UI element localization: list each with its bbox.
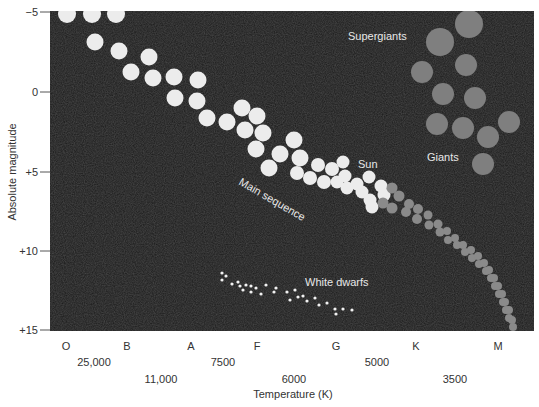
star-point — [467, 246, 475, 254]
star-point — [272, 290, 275, 293]
star-point — [255, 125, 272, 142]
star-point — [248, 141, 265, 158]
x-tick-label: K — [412, 340, 420, 352]
x-tick-label: O — [62, 340, 71, 352]
hr-diagram: SupergiantsGiantsSunMain sequenceWhite d… — [0, 0, 539, 407]
x-tick-label: A — [187, 340, 195, 352]
star-point — [107, 5, 125, 23]
star-point — [145, 70, 162, 87]
star-point — [455, 54, 477, 76]
star-point — [444, 236, 452, 244]
star-point — [508, 316, 516, 324]
y-tick-label: +5 — [25, 166, 38, 178]
star-point — [455, 10, 483, 38]
star-point — [366, 201, 379, 214]
star-point — [249, 290, 252, 293]
star-point — [167, 90, 184, 107]
star-point — [274, 286, 277, 289]
annotation-sun: Sun — [358, 158, 378, 170]
star-point — [237, 122, 254, 139]
star-point — [350, 308, 353, 311]
star-point — [272, 146, 289, 163]
y-tick-label: 0 — [32, 86, 38, 98]
star-point — [317, 303, 320, 306]
star-point — [293, 288, 296, 291]
star-point — [224, 274, 227, 277]
annotation-white-dwarfs: White dwarfs — [305, 276, 369, 288]
star-point — [325, 301, 328, 304]
annotation-giants: Giants — [427, 151, 459, 163]
star-point — [313, 296, 316, 299]
star-point — [452, 117, 474, 139]
star-point — [199, 110, 216, 127]
star-point — [254, 286, 257, 289]
star-point — [459, 241, 467, 249]
star-point — [341, 307, 344, 310]
spectral-class-labels: OBAFGKM — [62, 340, 503, 352]
star-point — [485, 266, 493, 274]
star-point — [498, 111, 520, 133]
star-point — [333, 307, 336, 310]
star-point — [424, 211, 433, 220]
star-point — [286, 132, 303, 149]
star-point — [413, 204, 423, 214]
star-point — [426, 28, 454, 56]
star-point — [464, 87, 486, 109]
y-tick-label: +15 — [19, 324, 38, 336]
star-point — [501, 298, 509, 306]
star-point — [378, 198, 389, 209]
y-tick-label: +10 — [19, 245, 38, 257]
star-point — [220, 271, 223, 274]
star-point — [123, 64, 140, 81]
x-tick-label: M — [493, 340, 502, 352]
star-point — [480, 259, 488, 267]
star-point — [498, 290, 506, 298]
x-tick-label: 11,000 — [145, 373, 178, 385]
star-point — [305, 299, 308, 302]
star-point — [472, 153, 494, 175]
star-point — [261, 160, 278, 177]
star-point — [426, 113, 448, 135]
star-point — [285, 290, 288, 293]
star-point — [288, 298, 291, 301]
star-point — [394, 191, 405, 202]
star-point — [111, 43, 128, 60]
temperature-ticks-row1: 25,00075005000 — [77, 356, 389, 368]
star-point — [334, 312, 337, 315]
star-point — [337, 156, 350, 169]
star-point — [494, 282, 502, 290]
star-point — [301, 294, 304, 297]
x-tick-label: G — [332, 340, 341, 352]
star-point — [249, 108, 266, 125]
star-point — [241, 288, 244, 291]
star-point — [141, 49, 158, 66]
star-point — [249, 284, 252, 287]
star-point — [292, 150, 309, 167]
star-point — [477, 126, 499, 148]
star-point — [412, 214, 422, 224]
x-tick-label: B — [123, 340, 130, 352]
star-point — [303, 171, 317, 185]
star-point — [505, 306, 513, 314]
star-point — [244, 283, 247, 286]
x-tick-label: 3500 — [443, 373, 467, 385]
x-tick-label: 6000 — [282, 373, 306, 385]
star-point — [509, 323, 517, 331]
x-tick-label: 7500 — [211, 356, 235, 368]
star-point — [474, 252, 482, 260]
x-tick-label: 25,000 — [77, 356, 111, 368]
star-point — [234, 100, 251, 117]
star-point — [363, 171, 376, 184]
star-point — [290, 166, 304, 180]
star-point — [296, 295, 299, 298]
star-point — [451, 234, 459, 242]
star-point — [311, 158, 325, 172]
star-point — [490, 274, 498, 282]
star-point — [259, 292, 262, 295]
star-point — [238, 284, 241, 287]
star-point — [264, 283, 267, 286]
star-point — [434, 220, 443, 229]
star-point — [58, 5, 76, 23]
x-axis-label: Temperature (K) — [253, 388, 332, 400]
y-axis-label: Absolute magnitude — [6, 123, 18, 220]
